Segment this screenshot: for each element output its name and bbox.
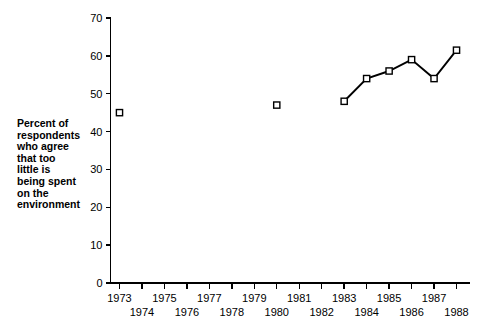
y-axis-tick-label: 70 [90, 12, 102, 24]
series-polyline [344, 50, 456, 101]
data-point-marker [386, 68, 392, 74]
x-axis-tick-label: 1983 [332, 292, 356, 304]
x-axis-tick-label: 1976 [175, 306, 199, 318]
data-point-marker [431, 75, 437, 81]
x-axis-tick-label: 1985 [377, 292, 401, 304]
x-axis-tick-label: 1973 [107, 292, 131, 304]
y-axis: 010203040506070 [90, 12, 110, 289]
data-point-marker [364, 75, 370, 81]
data-point-marker [116, 110, 122, 116]
data-point-marker [341, 98, 347, 104]
x-axis-tick-label: 1984 [354, 306, 378, 318]
data-point-marker [274, 102, 280, 108]
x-axis-tick-label: 1979 [242, 292, 266, 304]
x-axis-tick-label: 1982 [309, 306, 333, 318]
x-axis-tick-label: 1988 [444, 306, 468, 318]
y-axis-tick-label: 10 [90, 239, 102, 251]
data-point-marker [408, 57, 414, 63]
data-series-group [344, 50, 456, 101]
data-marker-group [116, 47, 459, 116]
x-axis-tick-label: 1975 [152, 292, 176, 304]
line-chart: 010203040506070 197319741975197619771978… [0, 0, 494, 325]
x-axis-tick-label: 1987 [422, 292, 446, 304]
chart-container: Percent of respondents who agree that to… [0, 0, 494, 325]
y-axis-tick-label: 0 [96, 277, 102, 289]
y-axis-tick-label: 30 [90, 163, 102, 175]
x-axis-tick-label: 1980 [265, 306, 289, 318]
y-axis-tick-label: 50 [90, 88, 102, 100]
x-axis-tick-label: 1977 [197, 292, 221, 304]
x-axis-tick-label: 1981 [287, 292, 311, 304]
y-axis-tick-label: 40 [90, 126, 102, 138]
x-axis-tick-label: 1978 [220, 306, 244, 318]
y-axis-tick-label: 60 [90, 50, 102, 62]
x-axis-tick-label: 1986 [399, 306, 423, 318]
x-axis-tick-label: 1974 [130, 306, 154, 318]
y-axis-tick-label: 20 [90, 201, 102, 213]
x-axis: 1973197419751976197719781979198019811982… [107, 283, 470, 318]
data-point-marker [453, 47, 459, 53]
